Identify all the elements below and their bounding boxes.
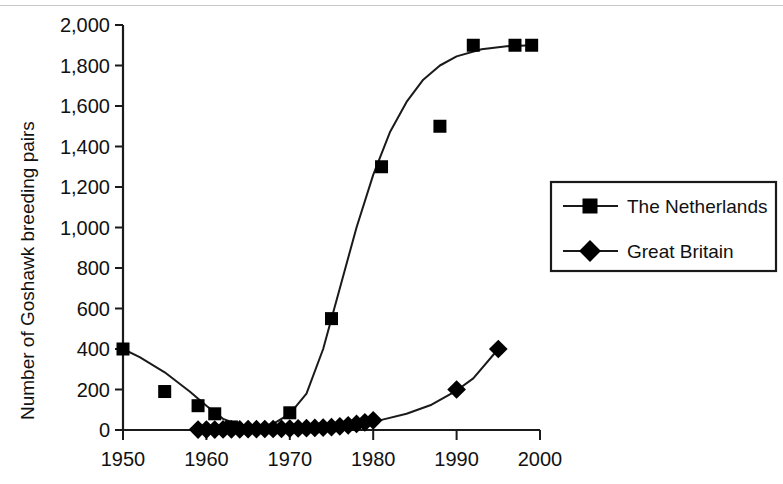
series-great-britain bbox=[189, 340, 508, 439]
y-tick-label: 200 bbox=[77, 379, 110, 401]
data-point-marker bbox=[433, 120, 446, 133]
data-point-marker bbox=[508, 39, 521, 52]
y-tick-label: 1,600 bbox=[60, 95, 110, 117]
y-tick-label: 1,200 bbox=[60, 176, 110, 198]
data-point-marker bbox=[325, 312, 338, 325]
legend-marker-icon bbox=[583, 199, 598, 214]
y-tick-label: 800 bbox=[77, 257, 110, 279]
data-point-marker bbox=[208, 407, 221, 420]
x-tick-label: 1960 bbox=[184, 448, 229, 470]
y-tick-label: 1,800 bbox=[60, 55, 110, 77]
chart-legend: The NetherlandsGreat Britain bbox=[551, 182, 776, 271]
y-tick-label: 0 bbox=[99, 419, 110, 441]
plot-area: 02004006008001,0001,2001,4001,6001,8002,… bbox=[60, 14, 562, 470]
data-point-marker bbox=[192, 399, 205, 412]
series-the-netherlands bbox=[117, 39, 539, 434]
y-tick-label: 1,000 bbox=[60, 217, 110, 239]
y-tick-label: 400 bbox=[77, 338, 110, 360]
x-tick-label: 1980 bbox=[351, 448, 396, 470]
x-tick-label: 1970 bbox=[268, 448, 313, 470]
y-axis-label: Number of Goshawk breeding pairs bbox=[17, 121, 38, 420]
legend-item[interactable]: Great Britain bbox=[563, 240, 734, 262]
data-point-marker bbox=[375, 160, 388, 173]
y-tick-label: 600 bbox=[77, 298, 110, 320]
trend-line bbox=[123, 45, 532, 427]
x-tick-label: 1990 bbox=[434, 448, 479, 470]
data-point-marker bbox=[117, 343, 130, 356]
x-tick-label: 1950 bbox=[101, 448, 146, 470]
chart-figure: Number of Goshawk breeding pairs 0200400… bbox=[0, 0, 783, 484]
y-tick-label: 1,400 bbox=[60, 136, 110, 158]
data-point-marker bbox=[467, 39, 480, 52]
legend-item-label: The Netherlands bbox=[627, 196, 767, 217]
goshawk-breeding-pairs-chart: Number of Goshawk breeding pairs 0200400… bbox=[0, 0, 783, 484]
data-point-marker bbox=[158, 385, 171, 398]
data-point-marker bbox=[447, 380, 466, 399]
y-tick-label: 2,000 bbox=[60, 14, 110, 36]
legend-item-label: Great Britain bbox=[627, 241, 734, 262]
data-point-marker bbox=[525, 39, 538, 52]
data-point-marker bbox=[283, 406, 296, 419]
x-tick-label: 2000 bbox=[518, 448, 563, 470]
